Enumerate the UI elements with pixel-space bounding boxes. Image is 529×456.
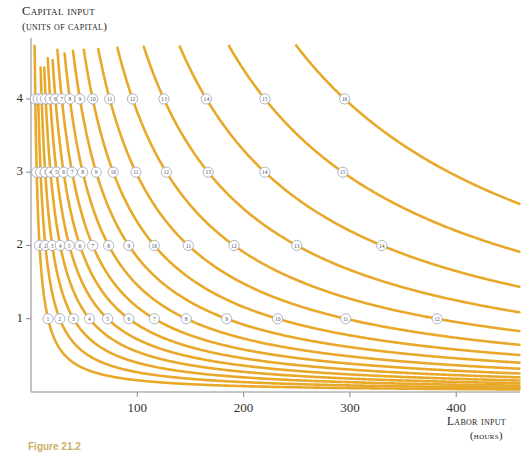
svg-text:7: 7 bbox=[60, 96, 63, 102]
curve-label-marker-6-k1: 6 bbox=[124, 314, 134, 324]
svg-text:6: 6 bbox=[127, 316, 130, 322]
svg-text:10: 10 bbox=[110, 169, 116, 175]
y-tick-label-4: 4 bbox=[1, 90, 23, 106]
curve-label-marker-14-k2: 14 bbox=[377, 240, 387, 250]
y-tick-label-2: 2 bbox=[1, 236, 23, 252]
isoquant-curve-12 bbox=[117, 48, 519, 331]
curve-label-marker-15-k3: 15 bbox=[338, 167, 348, 177]
svg-text:13: 13 bbox=[294, 243, 300, 249]
isoquant-curve-16 bbox=[296, 45, 519, 203]
svg-text:9: 9 bbox=[225, 316, 228, 322]
curve-label-marker-10-k2: 10 bbox=[149, 240, 159, 250]
svg-text:13: 13 bbox=[205, 169, 211, 175]
svg-text:4: 4 bbox=[59, 243, 62, 249]
svg-text:11: 11 bbox=[186, 243, 192, 249]
curve-label-marker-6-k2: 6 bbox=[75, 240, 85, 250]
isoquant-curve-7 bbox=[57, 50, 519, 374]
svg-text:14: 14 bbox=[379, 243, 385, 249]
svg-text:12: 12 bbox=[130, 96, 136, 102]
x-tick-label-100: 100 bbox=[117, 400, 157, 416]
svg-text:15: 15 bbox=[340, 169, 346, 175]
svg-text:12: 12 bbox=[164, 169, 170, 175]
curve-label-marker-7-k2: 7 bbox=[88, 240, 98, 250]
svg-text:7: 7 bbox=[153, 316, 156, 322]
curve-label-marker-11-k4: 11 bbox=[105, 94, 115, 104]
svg-text:11: 11 bbox=[107, 96, 113, 102]
curve-label-marker-10-k1: 10 bbox=[273, 314, 283, 324]
curve-label-marker-14-k4: 14 bbox=[201, 94, 211, 104]
svg-text:9: 9 bbox=[127, 243, 130, 249]
svg-text:16: 16 bbox=[342, 96, 348, 102]
svg-text:1: 1 bbox=[47, 316, 50, 322]
svg-text:3: 3 bbox=[51, 243, 54, 249]
y-tick-label-3: 3 bbox=[1, 163, 23, 179]
curve-label-marker-12-k2: 12 bbox=[229, 240, 239, 250]
svg-text:7: 7 bbox=[91, 243, 94, 249]
curve-label-marker-3-k1: 3 bbox=[68, 314, 78, 324]
svg-text:6: 6 bbox=[79, 243, 82, 249]
svg-text:9: 9 bbox=[79, 96, 82, 102]
svg-text:5: 5 bbox=[68, 243, 71, 249]
axes-layer bbox=[26, 38, 520, 397]
curve-label-marker-10-k4: 10 bbox=[88, 94, 98, 104]
curve-label-marker-8-k2: 8 bbox=[104, 240, 114, 250]
svg-text:8: 8 bbox=[81, 169, 84, 175]
curve-label-marker-5-k1: 5 bbox=[102, 314, 112, 324]
svg-text:12: 12 bbox=[231, 243, 237, 249]
curve-label-marker-15-k4: 15 bbox=[260, 94, 270, 104]
curve-label-marker-13-k4: 13 bbox=[159, 94, 169, 104]
curve-label-marker-13-k2: 13 bbox=[292, 240, 302, 250]
svg-text:6: 6 bbox=[62, 169, 65, 175]
curve-label-marker-9-k4: 9 bbox=[75, 94, 85, 104]
svg-text:8: 8 bbox=[185, 316, 188, 322]
plot-area: 1234567891011121234567891011121314123456… bbox=[0, 0, 529, 456]
curve-label-marker-7-k1: 7 bbox=[149, 314, 159, 324]
curve-label-marker-7-k3: 7 bbox=[67, 167, 77, 177]
curve-label-marker-8-k3: 8 bbox=[78, 167, 88, 177]
svg-text:10: 10 bbox=[275, 316, 281, 322]
svg-text:8: 8 bbox=[107, 243, 110, 249]
svg-text:14: 14 bbox=[204, 96, 210, 102]
curve-label-marker-9-k2: 9 bbox=[124, 240, 134, 250]
curve-label-marker-9-k3: 9 bbox=[91, 167, 101, 177]
isoquant-curve-9 bbox=[73, 51, 519, 363]
svg-text:13: 13 bbox=[161, 96, 167, 102]
curve-label-marker-11-k2: 11 bbox=[183, 240, 193, 250]
y-tick-label-1: 1 bbox=[1, 310, 23, 326]
curve-label-marker-5-k2: 5 bbox=[64, 240, 74, 250]
svg-text:12: 12 bbox=[434, 316, 440, 322]
svg-text:11: 11 bbox=[343, 316, 349, 322]
curve-label-marker-8-k4: 8 bbox=[65, 94, 75, 104]
curve-label-marker-12-k1: 12 bbox=[432, 314, 442, 324]
svg-text:14: 14 bbox=[262, 169, 268, 175]
curve-label-marker-16-k4: 16 bbox=[339, 94, 349, 104]
svg-text:5: 5 bbox=[106, 316, 109, 322]
curve-label-marker-8-k1: 8 bbox=[181, 314, 191, 324]
svg-text:3: 3 bbox=[72, 316, 75, 322]
svg-text:2: 2 bbox=[58, 316, 61, 322]
svg-text:9: 9 bbox=[95, 169, 98, 175]
svg-text:7: 7 bbox=[71, 169, 74, 175]
svg-text:5: 5 bbox=[55, 169, 58, 175]
curve-label-marker-13-k3: 13 bbox=[203, 167, 213, 177]
isoquant-chart: Capital input (units of capital) Labor i… bbox=[0, 0, 529, 456]
svg-text:10: 10 bbox=[152, 243, 158, 249]
svg-text:10: 10 bbox=[90, 96, 96, 102]
svg-text:11: 11 bbox=[133, 169, 139, 175]
curve-label-marker-9-k1: 9 bbox=[222, 314, 232, 324]
svg-text:15: 15 bbox=[262, 96, 268, 102]
isoquant-curve-14 bbox=[180, 47, 520, 287]
svg-text:2: 2 bbox=[44, 243, 47, 249]
x-tick-label-400: 400 bbox=[436, 400, 476, 416]
curve-label-marker-2-k1: 2 bbox=[55, 314, 65, 324]
figure-caption: Figure 21.2 bbox=[28, 441, 81, 452]
curve-label-marker-11-k3: 11 bbox=[131, 167, 141, 177]
curve-label-marker-14-k3: 14 bbox=[260, 167, 270, 177]
curve-label-marker-12-k4: 12 bbox=[127, 94, 137, 104]
curve-label-marker-12-k3: 12 bbox=[161, 167, 171, 177]
x-tick-label-300: 300 bbox=[330, 400, 370, 416]
isoquant-curve-5 bbox=[48, 58, 520, 380]
isoquant-curve-15 bbox=[229, 46, 519, 252]
curve-label-marker-11-k1: 11 bbox=[341, 314, 351, 324]
curve-label-marker-4-k1: 4 bbox=[84, 314, 94, 324]
